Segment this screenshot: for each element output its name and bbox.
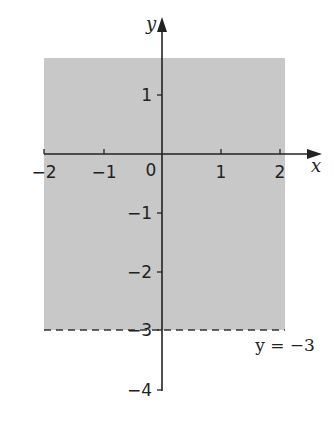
- shaded-region: [44, 58, 285, 330]
- x-tick-label: −1: [91, 162, 116, 182]
- origin-label: 0: [146, 160, 157, 180]
- x-tick-label: 1: [216, 162, 227, 182]
- x-tick-label: −2: [31, 162, 56, 182]
- y-tick-label: 1: [141, 85, 152, 105]
- inequality-graph: −2 −1 0 1 2 1 −1 −2 −3 −4 x y y = −3: [0, 0, 334, 426]
- boundary-label: y = −3: [254, 335, 315, 355]
- x-axis-label: x: [311, 155, 321, 176]
- y-axis-label: y: [145, 13, 157, 34]
- y-tick-label: −4: [127, 380, 152, 400]
- y-tick-label: −3: [127, 320, 152, 340]
- y-axis-arrow-icon: [157, 17, 167, 32]
- y-tick-label: −1: [127, 203, 152, 223]
- y-tick-label: −2: [127, 262, 152, 282]
- x-tick-label: 2: [275, 162, 286, 182]
